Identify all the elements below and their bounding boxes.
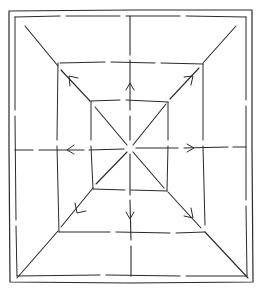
diagonals — [17, 26, 248, 278]
radial-arrow-diagram — [0, 0, 261, 289]
arrow-down-right-icon — [184, 208, 193, 218]
arrow-up-right-icon — [184, 76, 193, 85]
diagram-canvas — [0, 0, 261, 289]
vertical-axis — [130, 16, 131, 276]
horizontal-axis — [15, 147, 246, 150]
arrow-up-left-icon — [69, 76, 78, 86]
